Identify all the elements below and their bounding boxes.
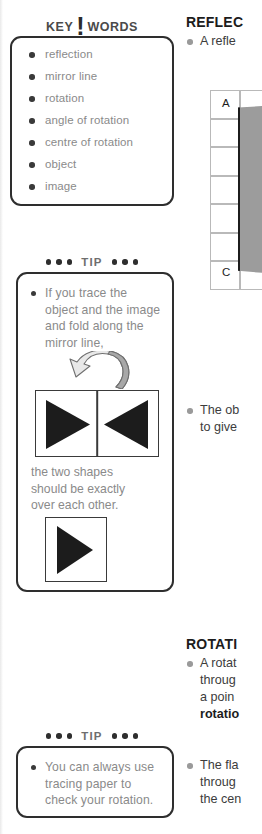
mirror-line-divider [96, 391, 98, 456]
bullet-line: throug [200, 673, 236, 687]
scan-edge [0, 0, 3, 834]
caption-line: over each other. [31, 498, 118, 512]
tip-dots-left-icon [46, 733, 73, 739]
tip-header-1: TIP [6, 252, 178, 272]
reflection-grid-diagram: A C [210, 90, 262, 290]
vertex-label-a: A [222, 97, 230, 109]
tip-panel-1-body: If you trace the object and the image an… [18, 274, 172, 351]
tip-line: You can always use [45, 760, 154, 774]
list-item: object [29, 159, 172, 171]
reflection-bullet-2: The ob to give [186, 402, 239, 436]
tip-panel-2: You can always use tracing paper to chec… [16, 746, 174, 818]
rotation-keyword: rotatio [200, 707, 239, 721]
right-content-column: REFLEC A refle [186, 0, 262, 834]
bullet-line: A rotat [200, 656, 236, 670]
tip-dots-right-icon [112, 733, 139, 739]
rotation-bullet-1: A rotat throug a poin rotatio [186, 655, 239, 723]
curved-fold-arrow-icon [58, 351, 136, 389]
object-triangle-shape [46, 400, 90, 449]
image-triangle-shape [104, 400, 148, 449]
tip-panel-1: If you trace the object and the image an… [16, 272, 174, 592]
tip-line: check your rotation. [45, 793, 153, 807]
list-item: image [29, 181, 172, 193]
list-item: rotation [29, 93, 172, 105]
overlapped-shape-panel [45, 517, 107, 582]
list-item: angle of rotation [29, 115, 172, 127]
tip-line: tracing paper to [45, 777, 131, 791]
grid-cell [210, 233, 240, 262]
list-item: mirror line [29, 71, 172, 83]
exclamation-icon: ! [76, 17, 84, 37]
mirror-demo-panel [35, 390, 159, 457]
grid-cell [210, 204, 240, 233]
tip-line: mirror line, [45, 336, 104, 350]
overlapped-triangle-shape [57, 526, 93, 574]
tip-panel-2-body: You can always use tracing paper to chec… [18, 748, 172, 809]
reflection-section-heading: REFLEC [186, 14, 243, 30]
key-words-panel: reflection mirror line rotation angle of… [10, 36, 174, 206]
shaded-shape [238, 104, 262, 276]
tip-line: and fold along the [45, 319, 144, 333]
grid-cell [210, 147, 240, 176]
list-item: reflection [29, 49, 172, 61]
tip-line: object and the image [45, 303, 160, 317]
reflection-bullet-1: A refle [186, 33, 236, 50]
bullet-line: The fla [200, 758, 239, 772]
vertex-label-c: C [222, 266, 230, 278]
bullet-line: the cen [200, 792, 241, 806]
tip-dots-left-icon [46, 259, 73, 265]
bullet-line: The ob [200, 403, 239, 417]
key-words-list: reflection mirror line rotation angle of… [12, 38, 172, 193]
caption-line: the two shapes [31, 465, 113, 479]
key-words-header-word2: WORDS [88, 21, 138, 35]
tip-panel-1-caption: the two shapes should be exactly over ea… [31, 464, 171, 514]
list-item: centre of rotation [29, 137, 172, 149]
tip-panel-2-bullet: You can always use tracing paper to chec… [31, 759, 162, 809]
rotation-section-heading: ROTATI [186, 636, 237, 652]
key-words-header: KEY ! WORDS [6, 8, 178, 34]
tip-line: If you trace the [45, 286, 127, 300]
tip-header-2: TIP [6, 726, 178, 746]
bullet-line: to give [200, 420, 237, 434]
grid-cell [210, 119, 240, 148]
tip-panel-1-bullet: If you trace the object and the image an… [31, 285, 162, 351]
tip-label-1: TIP [81, 256, 103, 268]
rotation-bullet-2: The fla throug the cen [186, 757, 241, 808]
tip-dots-right-icon [112, 259, 139, 265]
grid-cell [210, 176, 240, 205]
bullet-line: a poin [200, 690, 234, 704]
bullet-line: throug [200, 775, 236, 789]
key-words-header-word1: KEY [46, 21, 73, 35]
left-sidebar-column: KEY ! WORDS reflection mirror line rotat… [6, 0, 178, 834]
tip-label-2: TIP [81, 730, 103, 742]
caption-line: should be exactly [31, 482, 125, 496]
textbook-page: KEY ! WORDS reflection mirror line rotat… [0, 0, 262, 834]
